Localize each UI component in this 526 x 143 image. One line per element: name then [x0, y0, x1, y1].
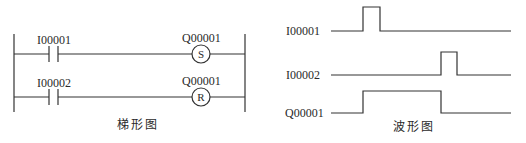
- rung-1: [14, 45, 245, 63]
- waveform-i00002: [331, 52, 511, 75]
- coil-type-r: R: [192, 92, 210, 103]
- diagram-canvas: [0, 0, 526, 143]
- coil-type-s: S: [192, 49, 210, 60]
- rung-2: [14, 88, 245, 106]
- ladder-caption: 梯形图: [117, 119, 159, 131]
- coil-label-reset: Q00001: [182, 75, 221, 87]
- signal-label-q00001: Q00001: [285, 107, 324, 119]
- signal-label-i00002: I00002: [286, 69, 320, 81]
- signal-label-i00001: I00001: [286, 25, 320, 37]
- contact-label-i00001: I00001: [37, 34, 71, 46]
- waveform-q00001: [331, 91, 511, 113]
- contact-label-i00002: I00002: [37, 77, 71, 89]
- waveform-caption: 波形图: [393, 121, 435, 133]
- waveform-i00001: [331, 7, 511, 31]
- coil-label-set: Q00001: [182, 32, 221, 44]
